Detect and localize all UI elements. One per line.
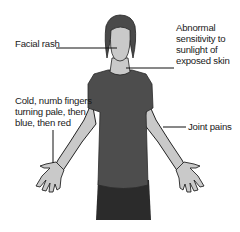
label-facial-rash: Facial rash xyxy=(15,38,60,49)
right-hand xyxy=(176,162,204,192)
label-sun-sensitivity: Abnormal sensitivity to sunlight of expo… xyxy=(176,22,230,66)
label-line: exposed skin xyxy=(176,55,230,66)
right-arm xyxy=(144,102,186,172)
face xyxy=(110,27,130,61)
label-line: sunlight of xyxy=(176,44,230,55)
label-joint-pains: Joint pains xyxy=(188,121,232,132)
label-line: sensitivity to xyxy=(176,33,230,44)
shirt xyxy=(88,70,153,189)
label-line: blue, then red xyxy=(15,117,92,128)
symptom-diagram: Facial rash Abnormal sensitivity to sunl… xyxy=(0,0,240,232)
left-hand xyxy=(36,162,64,192)
label-cold-fingers: Cold, numb fingers turning pale, then bl… xyxy=(15,95,92,128)
label-line: Cold, numb fingers xyxy=(15,95,92,106)
label-line: Abnormal xyxy=(176,22,230,33)
label-line: turning pale, then xyxy=(15,106,92,117)
